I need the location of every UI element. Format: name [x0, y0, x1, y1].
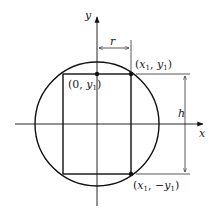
y-axis-label: y [84, 9, 92, 22]
height-label: h [178, 107, 185, 120]
x-axis-label: x [199, 127, 206, 140]
point-bottom-right [129, 172, 133, 176]
diagram-canvas: y x r h (0, y1) (x1, y1) (x1, −y1) [0, 0, 218, 213]
label-top-center: (0, y1) [68, 78, 101, 92]
point-top-center [95, 72, 99, 76]
label-bottom-right: (x1, −y1) [133, 179, 179, 193]
radius-label: r [110, 35, 116, 48]
label-top-right: (x1, y1) [135, 58, 172, 72]
